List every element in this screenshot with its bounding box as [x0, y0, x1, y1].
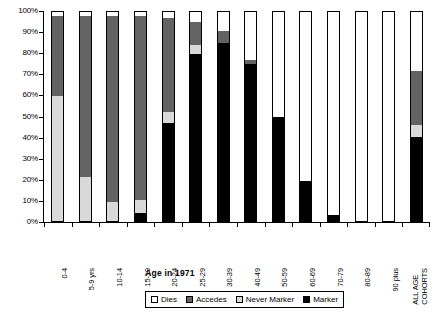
bar-segment-marker: [245, 64, 256, 221]
bar-segment-marker: [328, 215, 339, 221]
stacked-bar-chart: 0%10%20%30%40%50%60%70%80%90%100% 0-45-9…: [0, 0, 437, 317]
legend-item: Never Marker: [236, 295, 294, 304]
bar-segment-marker: [190, 54, 201, 221]
bar-segment-never-marker: [135, 199, 146, 213]
bar-segment-accedes: [218, 30, 229, 44]
bar-segment-never-marker: [80, 177, 91, 221]
y-tick-label: 70%: [23, 70, 38, 78]
x-tick-mark: [72, 223, 73, 227]
x-tick-mark: [320, 223, 321, 227]
bar-column: [327, 11, 340, 222]
bar-segment-dies: [300, 11, 311, 181]
bar-column: [79, 11, 92, 222]
bar-segment-marker: [135, 213, 146, 221]
y-tick-label: 0%: [27, 218, 38, 226]
bar-column: [106, 11, 119, 222]
bar-segment-never-marker: [411, 124, 422, 138]
bar-segment-accedes: [190, 21, 201, 45]
y-tick-label: 60%: [23, 91, 38, 99]
bar-column: [134, 11, 147, 222]
y-tick-label: 80%: [23, 49, 38, 57]
legend-item: Marker: [303, 295, 338, 304]
x-tick-mark: [154, 223, 155, 227]
y-tick-label: 100%: [18, 7, 38, 15]
plot-area: 0%10%20%30%40%50%60%70%80%90%100% 0-45-9…: [0, 0, 437, 240]
x-axis-title: Age in 1971: [0, 268, 340, 278]
legend-label: Dies: [161, 295, 177, 304]
x-tick-mark: [127, 223, 128, 227]
y-tick-label: 30%: [23, 155, 38, 163]
bar-segment-marker: [411, 137, 422, 221]
bar-column: [244, 11, 257, 222]
x-tick-mark: [375, 223, 376, 227]
bar-segment-dies: [411, 11, 422, 71]
x-tick-mark: [99, 223, 100, 227]
bar-column: [162, 11, 175, 222]
legend-swatch-icon: [236, 296, 243, 303]
y-tick-label: 50%: [23, 113, 38, 121]
x-tick-mark: [182, 223, 183, 227]
bar-segment-dies: [245, 11, 256, 60]
bar-segment-marker: [218, 43, 229, 221]
bar-segment-marker: [300, 181, 311, 221]
legend-label: Marker: [313, 295, 338, 304]
bars-container: [44, 11, 430, 222]
bar-segment-accedes: [80, 15, 91, 177]
legend-swatch-icon: [186, 296, 193, 303]
legend-swatch-icon: [303, 296, 310, 303]
x-tick-mark: [402, 223, 403, 227]
x-tick-mark: [292, 223, 293, 227]
bar-column: [382, 11, 395, 222]
bar-column: [299, 11, 312, 222]
x-tick-mark: [209, 223, 210, 227]
bar-segment-accedes: [52, 15, 63, 95]
bar-segment-accedes: [411, 70, 422, 125]
bar-segment-marker: [163, 123, 174, 221]
legend-swatch-icon: [151, 296, 158, 303]
chart-legend: DiesAccedesNever MarkerMarker: [145, 291, 344, 308]
y-tick-label: 20%: [23, 176, 38, 184]
x-tick-label: 90 plus: [392, 268, 400, 292]
bar-column: [355, 11, 368, 222]
bar-column: [272, 11, 285, 222]
bar-segment-dies: [135, 11, 146, 16]
bar-segment-dies: [80, 11, 91, 16]
x-tick-mark: [44, 223, 45, 227]
y-tick-label: 90%: [23, 28, 38, 36]
bar-segment-dies: [328, 11, 339, 215]
bar-segment-accedes: [107, 15, 118, 202]
bar-segment-dies: [356, 12, 367, 221]
bar-segment-never-marker: [190, 44, 201, 53]
legend-item: Dies: [151, 295, 177, 304]
bar-segment-dies: [273, 11, 284, 117]
bar-segment-accedes: [135, 15, 146, 200]
x-tick-mark: [265, 223, 266, 227]
x-tick-label: 80-89: [364, 268, 372, 287]
bar-segment-never-marker: [52, 96, 63, 221]
bar-segment-never-marker: [163, 111, 174, 122]
x-tick-mark: [237, 223, 238, 227]
bar-column: [410, 11, 423, 222]
bar-segment-dies: [218, 11, 229, 31]
x-tick-label: ALL AGE COHORTS: [412, 268, 429, 305]
bar-segment-never-marker: [107, 202, 118, 221]
bar-column: [217, 11, 230, 222]
x-tick-mark: [429, 223, 430, 227]
bar-column: [189, 11, 202, 222]
bar-segment-dies: [107, 11, 118, 16]
bar-segment-dies: [163, 11, 174, 18]
legend-label: Never Marker: [246, 295, 294, 304]
bar-segment-dies: [190, 11, 201, 22]
y-axis-tick-labels: 0%10%20%30%40%50%60%70%80%90%100%: [2, 11, 38, 222]
bar-segment-accedes: [163, 17, 174, 112]
bar-segment-marker: [273, 117, 284, 222]
y-tick-label: 40%: [23, 134, 38, 142]
bar-segment-dies: [52, 11, 63, 16]
x-tick-mark: [347, 223, 348, 227]
bar-column: [51, 11, 64, 222]
legend-label: Accedes: [196, 295, 227, 304]
legend-item: Accedes: [186, 295, 227, 304]
x-axis-tick-labels: 0-45-9 yrs10-1415-1920-2425-2930-3940-49…: [44, 228, 430, 268]
bar-segment-dies: [383, 12, 394, 221]
y-tick-label: 10%: [23, 197, 38, 205]
